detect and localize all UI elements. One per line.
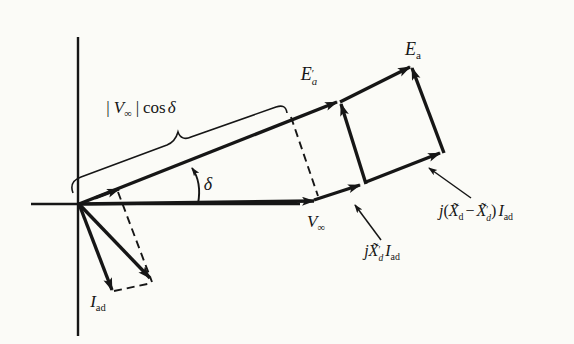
current-parallelogram-dashed-bottom xyxy=(114,283,152,291)
i-ad-vector xyxy=(79,204,112,290)
label-jx-difference-iad: j(X̃d−X̃′d)Iad xyxy=(439,202,513,222)
v-cos-delta-brace xyxy=(72,106,287,193)
jx-difference-pointer-arrow xyxy=(429,168,471,198)
label-v-infinity: V∞ xyxy=(307,212,325,233)
label-jxd-prime-iad: jX̃′dIad xyxy=(364,242,400,262)
phasor-diagram-figure: Ea E′a |V∞|cosδ δ V∞ jX̃′dIad j(X̃d−X̃′d… xyxy=(0,0,574,344)
label-ea-prime: E′a xyxy=(301,64,317,86)
label-i-ad: Iad xyxy=(90,292,106,313)
delta-angle-arc xyxy=(192,168,199,204)
right-edge-vector xyxy=(412,68,444,153)
q-axis-component-vector xyxy=(95,189,119,198)
jxd-prime-drop-vector xyxy=(314,185,360,200)
left-edge-vector xyxy=(341,104,366,184)
label-ea: Ea xyxy=(405,39,421,61)
label-v-cos-delta: |V∞|cosδ xyxy=(106,98,175,119)
ea-top-edge-vector xyxy=(340,67,410,102)
current-parallelogram-dashed-right xyxy=(118,192,152,282)
projection-dashed-line xyxy=(291,117,318,196)
jx-difference-drop-vector xyxy=(366,153,440,182)
i-a-resultant-vector xyxy=(79,204,150,278)
jxd-prime-pointer-arrow xyxy=(355,205,381,240)
phasor-diagram-canvas xyxy=(0,0,574,344)
label-delta: δ xyxy=(204,174,212,195)
